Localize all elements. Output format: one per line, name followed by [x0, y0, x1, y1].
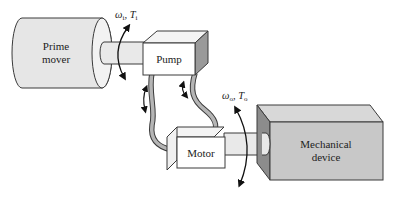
input-shaft: [100, 42, 145, 64]
input-shaft-label: ωi, Ti: [115, 9, 137, 22]
mechanical-device: Mechanical device: [257, 105, 383, 180]
motor-label: Motor: [187, 147, 215, 159]
prime-mover-label-line1: Prime: [43, 40, 69, 52]
prime-mover-label-line2: mover: [42, 53, 70, 65]
hydrostatic-transmission-diagram: Prime mover ωi, Ti Pump Motor: [0, 0, 396, 198]
output-shaft-label: ωo, To: [222, 90, 248, 103]
mechanical-device-label-line2: device: [312, 151, 341, 163]
motor: Motor: [167, 127, 225, 170]
pump: Pump: [143, 31, 208, 75]
prime-mover: Prime mover: [12, 18, 112, 88]
mechanical-device-label-line1: Mechanical: [300, 138, 351, 150]
hose-flow-arrow-left-icon: [144, 88, 146, 110]
pump-label: Pump: [156, 53, 182, 65]
hose-flow-arrow-right-icon: [182, 84, 186, 96]
